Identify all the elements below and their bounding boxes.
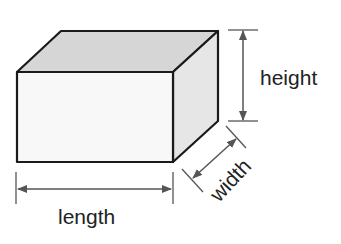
length-label: length: [58, 205, 115, 228]
prism-diagram: height length width: [0, 0, 341, 244]
width-label: width: [204, 154, 255, 206]
height-label: height: [260, 66, 317, 89]
front-face: [17, 72, 173, 162]
height-dimension: height: [228, 30, 317, 121]
length-dimension: length: [16, 172, 173, 228]
rectangular-prism: [17, 31, 218, 162]
